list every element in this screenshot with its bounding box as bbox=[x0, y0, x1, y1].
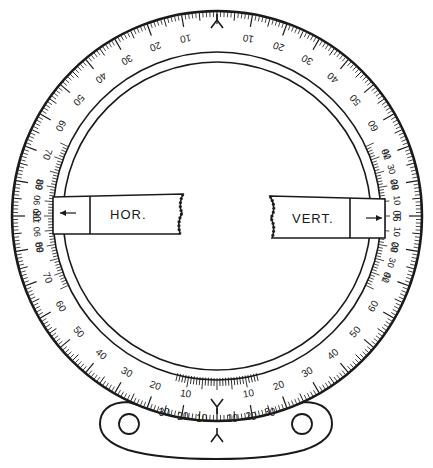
svg-text:0: 0 bbox=[393, 213, 403, 218]
horizontal-arm: HOR. bbox=[53, 194, 183, 234]
svg-text:10: 10 bbox=[227, 413, 239, 424]
hor-label: HOR. bbox=[110, 207, 147, 222]
svg-text:10: 10 bbox=[196, 413, 208, 424]
svg-text:30: 30 bbox=[264, 407, 276, 418]
svg-text:100: 100 bbox=[31, 208, 41, 223]
svg-text:80: 80 bbox=[33, 242, 45, 254]
svg-text:90: 90 bbox=[32, 195, 43, 206]
svg-text:90: 90 bbox=[32, 226, 43, 237]
svg-text:10: 10 bbox=[392, 195, 403, 206]
vert-label: VERT. bbox=[292, 211, 334, 226]
clinometer-diagram: 1020304050607080901020304050607080908070… bbox=[0, 0, 433, 468]
svg-text:20: 20 bbox=[177, 411, 189, 422]
vertical-arm: VERT. bbox=[270, 196, 385, 238]
svg-text:20: 20 bbox=[389, 242, 401, 254]
svg-text:30: 30 bbox=[159, 407, 171, 418]
svg-text:80: 80 bbox=[33, 179, 45, 191]
svg-text:10: 10 bbox=[392, 226, 403, 237]
svg-text:20: 20 bbox=[389, 179, 401, 191]
svg-text:20: 20 bbox=[246, 411, 258, 422]
